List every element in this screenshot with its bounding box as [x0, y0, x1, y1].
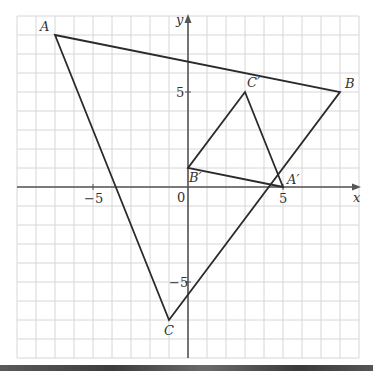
vertex-label-b-prime: B′ [188, 170, 202, 185]
axes [17, 14, 361, 358]
vertex-label-a-prime: A′ [286, 172, 299, 187]
labels: xy0−555−5ABCA′B′C′ [39, 12, 361, 338]
x-axis-label: x [353, 190, 361, 205]
vertex-label-c: C [164, 323, 174, 338]
y-axis-arrow-icon [185, 14, 192, 23]
x-tick-label: 5 [279, 191, 287, 206]
y-tick-label: 5 [176, 85, 184, 100]
vertex-label-b: B [344, 76, 355, 91]
vertex-label-c-prime: C′ [247, 75, 260, 90]
vertex-label-a: A [39, 19, 49, 34]
page-edge-shadow [0, 365, 373, 371]
x-tick-label: −5 [84, 191, 103, 206]
y-tick-label: −5 [169, 275, 188, 290]
y-axis-label: y [175, 12, 184, 27]
origin-label: 0 [177, 190, 185, 205]
triangle-abc [188, 92, 283, 187]
coordinate-diagram: xy0−555−5ABCA′B′C′ [0, 0, 373, 371]
